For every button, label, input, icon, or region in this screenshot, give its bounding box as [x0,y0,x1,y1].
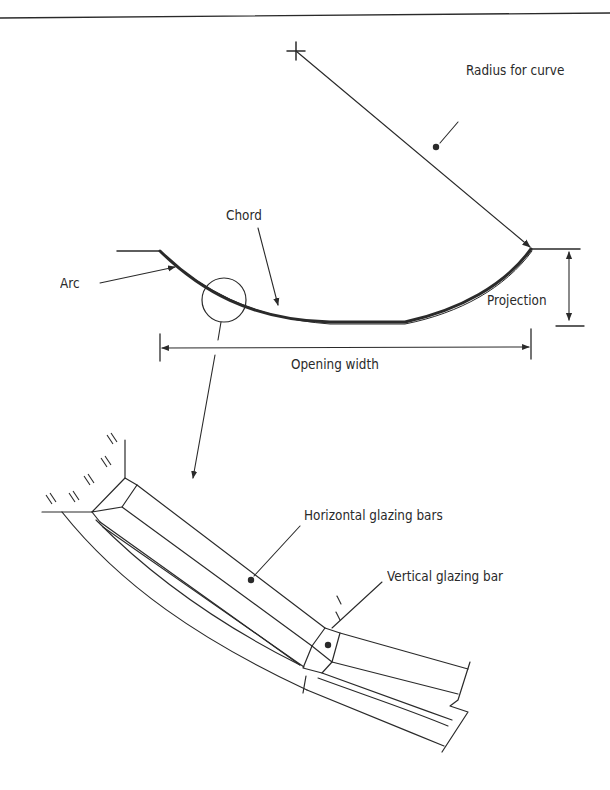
projection-label: Projection [487,293,547,307]
callout-arrow [193,355,215,478]
radius-line [296,51,530,247]
arc-label: Arc [60,276,80,290]
opening-width-dimension [162,347,529,348]
arc-leader [100,267,175,283]
glazing-detail [42,433,470,752]
chord-label: Chord [226,208,262,222]
bay-window-diagram: Radius for curve Chord Arc Projection Op… [0,0,610,790]
opening-width-label: Opening width [291,357,379,371]
horizontal-glazing-bars-label: Horizontal glazing bars [304,508,443,522]
radius-leader [440,122,458,143]
detail-circle-icon [202,278,246,322]
vertical-glazing-bar-label: Vertical glazing bar [387,569,503,583]
radius-label: Radius for curve [466,63,564,77]
top-rule [0,13,610,18]
chord-line [162,251,532,324]
radius-dot [433,144,439,150]
arc-curve [160,249,531,322]
diagram-canvas [0,0,610,790]
chord-leader [258,228,278,305]
callout-dash [218,322,221,340]
